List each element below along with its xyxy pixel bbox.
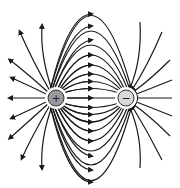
- dipole-field-diagram: + −: [0, 0, 180, 188]
- field-lines-svg: + −: [0, 0, 180, 188]
- negative-charge: −: [115, 87, 137, 109]
- positive-charge: +: [45, 87, 67, 109]
- minus-symbol: −: [121, 92, 130, 105]
- plus-symbol: +: [51, 92, 60, 105]
